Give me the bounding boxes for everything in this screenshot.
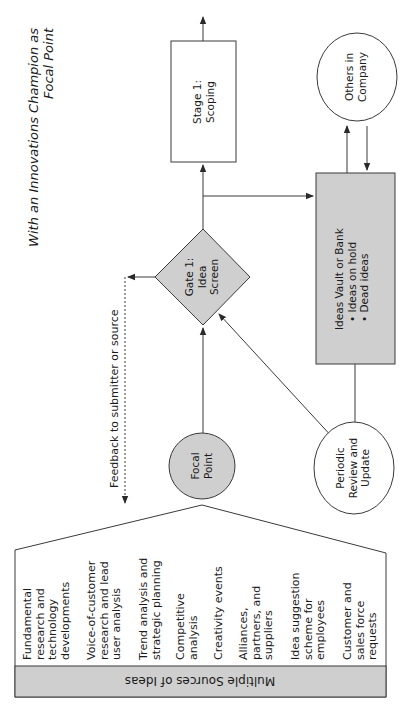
stage1-label: Stage 1: Scoping [191,72,216,132]
others-line-1: Others in [343,42,356,112]
periodic-line-2: Review and [347,433,360,503]
source-item: Idea suggestionscheme foremployees [290,573,328,660]
stage1-line-2: Scoping [204,72,217,132]
focal-line-2: Point [202,436,215,496]
vault-bullet-1: • Ideas on hold [346,190,359,330]
source-item: Fundamentalresearch andtechnologydevelop… [22,582,72,660]
title-line-1: With an Innovations Champion as [26,28,41,296]
gate1-line-3: Screen [208,247,221,307]
others-label: Others in Company [343,42,368,112]
periodic-label: Periodic Review and Update [334,433,372,503]
source-item: Creativity events [213,566,226,660]
gate1-label: Gate 1: Idea Screen [183,247,221,307]
periodic-line-1: Periodic [334,433,347,503]
vault-label: Ideas Vault or Bank • Ideas on hold • De… [333,190,371,330]
source-item: Trend analysis andstrategic planning [138,558,163,660]
vault-title: Ideas Vault or Bank [333,190,346,330]
title-line-2: Focal Point [41,28,56,296]
vault-bullet-2: • Dead ideas [358,190,371,330]
focal-line-1: Focal [189,436,202,496]
source-item: Customer andsales forcerequests [342,582,380,660]
others-line-2: Company [356,42,369,112]
source-item: Alliances,partners, andsuppliers [238,586,276,660]
source-item: Competitiveanalysis [175,593,200,660]
gate1-line-2: Idea [196,247,209,307]
periodic-line-3: Update [359,433,372,503]
gate1-line-1: Gate 1: [183,247,196,307]
sources-header-text: Multiple Sources of Ideas [125,674,275,688]
source-item: Voice-of-customerresearch and leaduser a… [86,561,124,660]
diagram-title: With an Innovations Champion as Focal Po… [26,28,56,296]
stage1-line-1: Stage 1: [191,72,204,132]
focal-point-label: Focal Point [189,436,214,496]
feedback-label: Feedback to submitter or source [109,309,122,488]
